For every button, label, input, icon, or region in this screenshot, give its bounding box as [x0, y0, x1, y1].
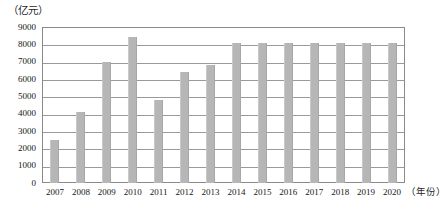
x-axis-tick-label: 2009 — [94, 187, 120, 198]
x-axis-tick-label: 2013 — [198, 187, 224, 198]
gridline — [43, 167, 404, 168]
y-axis-tick-labels: 9000800070006000500040003000200010000 — [0, 27, 40, 183]
plot-area — [42, 27, 405, 183]
x-axis-tick-label: 2010 — [120, 187, 146, 198]
y-axis-tick-label: 7000 — [0, 57, 36, 66]
x-axis-unit-label: （年份） — [406, 187, 442, 198]
x-axis-tick-label: 2007 — [42, 187, 68, 198]
x-axis-tick-labels: 2007200820092010201120122013201420152016… — [42, 187, 405, 201]
gridline — [43, 149, 404, 150]
y-axis-unit-label: （亿元） — [8, 2, 48, 17]
y-axis-tick-label: 4000 — [0, 109, 36, 118]
y-axis-tick-label: 8000 — [0, 40, 36, 49]
y-axis-tick-label: 3000 — [0, 127, 36, 136]
x-axis-tick-label: 2018 — [327, 187, 353, 198]
gridline — [43, 97, 404, 98]
x-axis-tick-label: 2011 — [146, 187, 172, 198]
x-axis-tick-label: 2012 — [172, 187, 198, 198]
y-axis-tick-label: 9000 — [0, 23, 36, 32]
y-axis-tick-label: 0 — [0, 179, 36, 188]
x-axis-tick-label: 2015 — [249, 187, 275, 198]
y-axis-tick-label: 2000 — [0, 144, 36, 153]
gridline — [43, 63, 404, 64]
gridline — [43, 115, 404, 116]
y-axis-tick-label: 1000 — [0, 161, 36, 170]
gridline — [43, 80, 404, 81]
y-axis-tick-label: 5000 — [0, 92, 36, 101]
x-axis-tick-label: 2019 — [353, 187, 379, 198]
x-axis-tick-label: 2016 — [275, 187, 301, 198]
bar-chart: （亿元） 90008000700060005000400030002000100… — [0, 0, 442, 216]
x-axis-tick-label: 2020 — [379, 187, 405, 198]
x-axis-tick-label: 2017 — [301, 187, 327, 198]
gridline — [43, 132, 404, 133]
x-axis-tick-label: 2008 — [68, 187, 94, 198]
y-axis-tick-label: 6000 — [0, 75, 36, 84]
gridline — [43, 45, 404, 46]
x-axis-tick-label: 2014 — [224, 187, 250, 198]
